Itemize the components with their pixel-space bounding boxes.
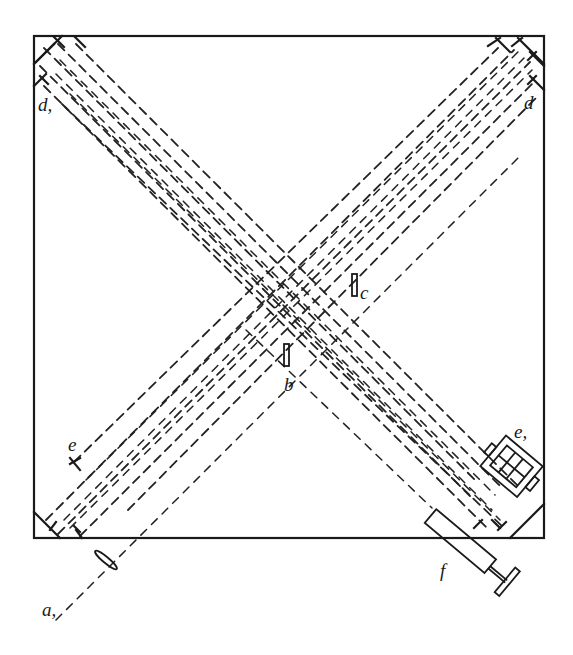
mirror-set-d xyxy=(488,38,544,90)
lens xyxy=(93,549,118,572)
label-e1: e, xyxy=(514,421,527,442)
label-e: e xyxy=(68,434,76,455)
labels: d, d c b e e, f a, xyxy=(38,92,534,620)
telescope-ray xyxy=(246,330,432,508)
label-c: c xyxy=(360,282,369,303)
plate-c xyxy=(352,274,357,296)
apparatus-frame xyxy=(34,36,544,538)
label-f: f xyxy=(440,560,448,581)
label-d: d xyxy=(524,92,534,113)
label-d1: d, xyxy=(38,94,52,115)
mirror-e xyxy=(70,458,80,470)
label-a: a, xyxy=(42,599,56,620)
mirror-assembly-e1 xyxy=(476,432,548,501)
telescope xyxy=(420,505,520,596)
label-b: b xyxy=(284,374,294,395)
plate-b xyxy=(284,344,289,366)
optical-diagram: d, d c b e e, f a, xyxy=(0,0,573,655)
